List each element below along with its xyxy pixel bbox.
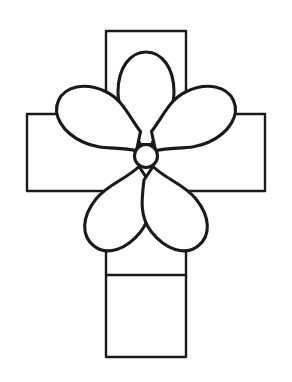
flower-center-hub (135, 145, 158, 168)
line-art-illustration (0, 0, 292, 382)
artboard: Cross with Five-Petal Flower Black outli… (0, 0, 292, 382)
